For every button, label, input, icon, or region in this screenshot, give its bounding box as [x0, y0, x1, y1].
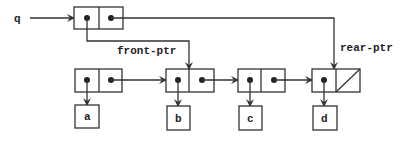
rear-ptr-label: rear-ptr	[340, 42, 393, 54]
rear-ptr-arrow	[111, 18, 334, 69]
value-box-b: b	[167, 106, 190, 130]
svg-text:b: b	[175, 113, 182, 125]
front-ptr-label: front-ptr	[117, 45, 176, 57]
list-pair-4	[312, 69, 360, 92]
queue-diagram: q front-ptr rear-ptr	[0, 0, 416, 141]
value-box-a: a	[75, 105, 99, 128]
value-box-c: c	[239, 106, 262, 130]
svg-text:d: d	[321, 113, 328, 125]
variable-q-label: q	[14, 13, 21, 25]
svg-text:c: c	[247, 113, 254, 125]
svg-text:a: a	[84, 111, 91, 123]
value-box-d: d	[313, 106, 337, 130]
